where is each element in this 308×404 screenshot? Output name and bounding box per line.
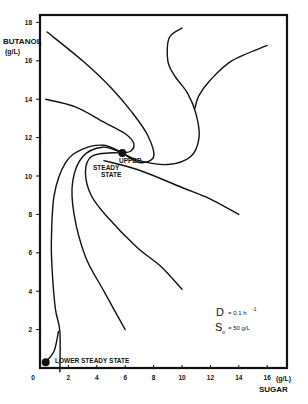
y-tick-label: 18 bbox=[25, 19, 33, 26]
upper-steady-state-label-3: STATE bbox=[101, 171, 122, 178]
trajectory-1 bbox=[47, 32, 154, 163]
x-tick-label: 8 bbox=[152, 374, 156, 381]
x-tick-label: 4 bbox=[95, 374, 99, 381]
y-axis-unit: (g/L) bbox=[5, 48, 20, 56]
lower-steady-state-dot bbox=[42, 358, 50, 366]
trajectory-8 bbox=[85, 153, 182, 290]
trajectories bbox=[46, 28, 268, 372]
x-tick-label: 2 bbox=[67, 374, 71, 381]
steady-state-markers bbox=[42, 149, 127, 366]
param-s-value: = 50 g/L bbox=[228, 325, 251, 331]
lower-steady-state-label: LOWER STEADY STATE bbox=[55, 357, 130, 364]
phase-plane-chart: 0246810121416 24681012141618 BUTANOL (g/… bbox=[0, 0, 308, 404]
plot-frame bbox=[40, 15, 287, 368]
y-axis-ticks: 24681012141618 bbox=[25, 19, 40, 333]
y-tick-label: 10 bbox=[25, 173, 33, 180]
x-tick-label: 16 bbox=[264, 374, 272, 381]
upper-steady-state-label-1: UPPER bbox=[119, 157, 142, 164]
y-tick-label: 4 bbox=[28, 288, 32, 295]
y-axis-label: BUTANOL bbox=[3, 37, 42, 46]
x-tick-label: 12 bbox=[207, 374, 215, 381]
y-tick-label: 12 bbox=[25, 134, 33, 141]
upper-steady-state-dot bbox=[118, 149, 126, 157]
param-s-subscript: o bbox=[222, 329, 225, 335]
trajectory-5 bbox=[104, 161, 239, 215]
x-tick-label: 6 bbox=[123, 374, 127, 381]
param-d-value: = 0.1 h bbox=[228, 310, 247, 316]
x-tick-label: 0 bbox=[31, 374, 35, 381]
param-d-exponent: -1 bbox=[252, 306, 257, 312]
y-tick-label: 8 bbox=[28, 211, 32, 218]
trajectory-4 bbox=[195, 45, 267, 108]
x-tick-label: 14 bbox=[235, 374, 243, 381]
y-tick-label: 16 bbox=[25, 57, 33, 64]
trajectory-2 bbox=[46, 99, 134, 153]
x-axis-label: SUGAR bbox=[259, 385, 288, 394]
x-axis-unit: (g/L) bbox=[276, 375, 291, 383]
y-tick-label: 2 bbox=[28, 326, 32, 333]
upper-steady-state-label-2: STEADY bbox=[93, 164, 120, 171]
param-d-symbol: D bbox=[216, 306, 224, 318]
y-tick-label: 14 bbox=[25, 96, 33, 103]
x-tick-label: 10 bbox=[178, 374, 186, 381]
y-tick-label: 6 bbox=[28, 249, 32, 256]
